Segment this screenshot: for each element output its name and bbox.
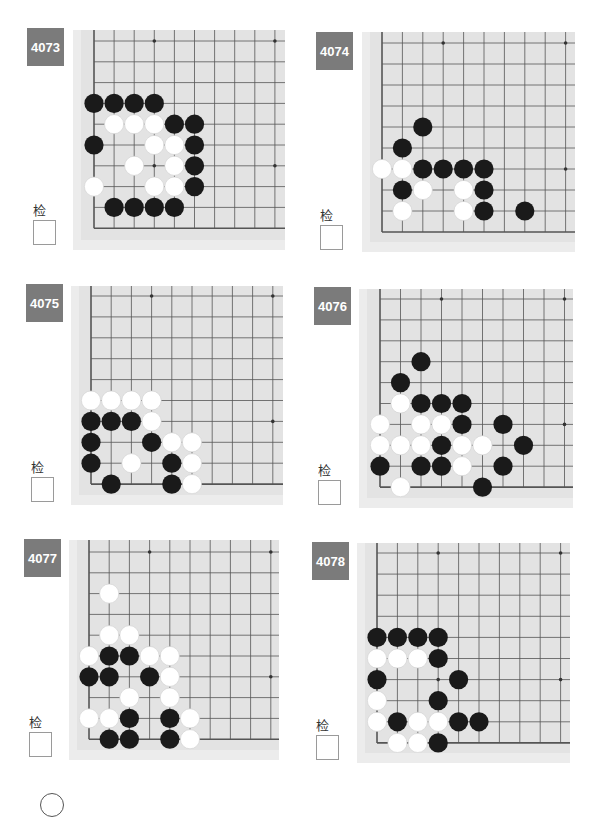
- white-stone: [182, 454, 201, 473]
- black-stone: [125, 94, 144, 113]
- black-stone: [454, 159, 473, 178]
- black-stone: [160, 730, 179, 749]
- black-stone: [514, 436, 533, 455]
- white-stone: [454, 201, 473, 220]
- check-box[interactable]: [318, 480, 341, 505]
- black-stone: [120, 709, 139, 728]
- problem-number: 4073: [27, 28, 64, 66]
- go-board: [71, 286, 283, 505]
- white-stone: [473, 436, 492, 455]
- black-stone: [429, 691, 448, 710]
- star-point: [271, 294, 275, 298]
- white-stone: [391, 478, 410, 497]
- white-stone: [182, 433, 201, 452]
- black-stone: [434, 159, 453, 178]
- black-stone: [122, 412, 141, 431]
- star-point: [559, 551, 563, 555]
- black-stone: [474, 180, 493, 199]
- white-stone: [408, 733, 427, 752]
- white-stone: [105, 115, 124, 134]
- white-stone: [125, 115, 144, 134]
- black-stone: [105, 198, 124, 217]
- black-stone: [84, 94, 103, 113]
- check-box[interactable]: [320, 225, 343, 250]
- white-stone: [160, 646, 179, 665]
- black-stone: [102, 475, 121, 494]
- white-stone: [145, 135, 164, 154]
- black-stone: [81, 454, 100, 473]
- black-stone: [408, 628, 427, 647]
- check-box[interactable]: [31, 477, 54, 502]
- black-stone: [429, 649, 448, 668]
- black-stone: [393, 180, 412, 199]
- star-point: [148, 550, 152, 554]
- white-stone: [408, 649, 427, 668]
- go-board: [69, 540, 279, 760]
- white-stone: [120, 688, 139, 707]
- star-point: [153, 39, 157, 43]
- black-stone: [145, 198, 164, 217]
- white-stone: [367, 649, 386, 668]
- black-stone: [449, 712, 468, 731]
- black-stone: [411, 394, 430, 413]
- white-stone: [102, 391, 121, 410]
- black-stone: [100, 730, 119, 749]
- black-stone: [162, 454, 181, 473]
- white-stone: [180, 709, 199, 728]
- white-stone: [84, 177, 103, 196]
- black-stone: [81, 412, 100, 431]
- white-stone: [429, 712, 448, 731]
- white-stone: [142, 391, 161, 410]
- white-stone: [393, 201, 412, 220]
- white-stone: [160, 688, 179, 707]
- go-board: [359, 289, 573, 508]
- black-stone: [162, 475, 181, 494]
- white-stone: [388, 649, 407, 668]
- white-stone: [391, 394, 410, 413]
- black-stone: [102, 412, 121, 431]
- black-stone: [493, 415, 512, 434]
- problem-number: 4078: [312, 542, 349, 580]
- black-stone: [388, 712, 407, 731]
- black-stone: [432, 436, 451, 455]
- white-stone: [165, 156, 184, 175]
- check-box[interactable]: [29, 732, 52, 757]
- white-stone: [372, 159, 391, 178]
- white-stone: [100, 626, 119, 645]
- go-board: [357, 543, 570, 763]
- white-stone: [452, 457, 471, 476]
- black-stone: [367, 670, 386, 689]
- white-stone: [120, 626, 139, 645]
- check-box[interactable]: [33, 220, 56, 245]
- black-stone: [474, 201, 493, 220]
- black-stone: [449, 670, 468, 689]
- black-stone: [393, 138, 412, 157]
- check-box[interactable]: [316, 735, 339, 760]
- problem-number: 4076: [314, 287, 351, 325]
- black-stone: [105, 94, 124, 113]
- white-stone: [79, 646, 98, 665]
- black-stone: [100, 667, 119, 686]
- white-stone: [165, 177, 184, 196]
- white-stone: [162, 433, 181, 452]
- black-stone: [432, 394, 451, 413]
- white-stone: [122, 454, 141, 473]
- black-stone: [493, 457, 512, 476]
- star-point: [273, 164, 277, 168]
- go-board: [73, 30, 285, 250]
- white-stone: [165, 135, 184, 154]
- star-point: [563, 297, 567, 301]
- black-stone: [367, 628, 386, 647]
- black-stone: [145, 94, 164, 113]
- white-stone: [100, 709, 119, 728]
- star-point: [153, 164, 157, 168]
- black-stone: [81, 433, 100, 452]
- black-stone: [429, 733, 448, 752]
- white-stone: [408, 712, 427, 731]
- star-point: [564, 167, 568, 171]
- white-stone: [182, 475, 201, 494]
- black-stone: [185, 156, 204, 175]
- black-stone: [452, 394, 471, 413]
- black-stone: [185, 135, 204, 154]
- problem-number: 4074: [316, 32, 353, 70]
